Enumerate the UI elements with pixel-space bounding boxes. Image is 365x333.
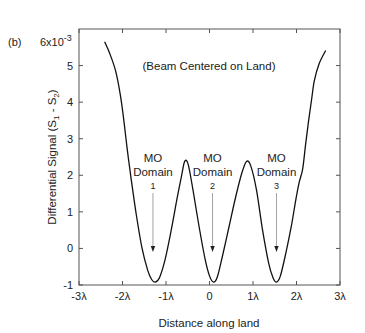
- svg-text:2: 2: [210, 181, 215, 191]
- x-tick-label: 2λ: [291, 290, 303, 302]
- mo-domain-3: MODomain3: [257, 152, 297, 252]
- svg-text:MO: MO: [144, 152, 163, 164]
- y-tick-label: 5: [67, 60, 73, 72]
- svg-text:MO: MO: [203, 152, 222, 164]
- svg-text:3: 3: [274, 181, 279, 191]
- x-tick-label: -3λ: [71, 290, 87, 302]
- svg-text:1: 1: [150, 181, 155, 191]
- chart: (b) 6x10-3 -1012345 -3λ-2λ-1λ01λ2λ3λ (Be…: [0, 0, 365, 333]
- annotation-title: (Beam Centered on Land): [143, 60, 276, 72]
- x-axis-label: Distance along land: [158, 317, 259, 329]
- svg-text:Domain: Domain: [133, 166, 173, 178]
- x-tick-label: 0: [206, 290, 212, 302]
- arrow-down-icon: [151, 246, 155, 252]
- y-tick-label: 3: [67, 133, 73, 145]
- y-tick-label: 1: [67, 206, 73, 218]
- arrow-down-icon: [210, 246, 214, 252]
- panel-label: (b): [8, 36, 21, 48]
- y-tick-label: 2: [67, 169, 73, 181]
- x-tick-label: -1λ: [158, 290, 174, 302]
- x-tick-label: -2λ: [115, 290, 131, 302]
- x-tick-label: 1λ: [247, 290, 259, 302]
- mo-domain-1: MODomain1: [133, 152, 173, 252]
- y-tick-label: 4: [67, 96, 73, 108]
- y-multiplier: 6x10-3: [40, 33, 72, 48]
- x-tick-label: 3λ: [334, 290, 346, 302]
- arrow-down-icon: [274, 246, 278, 252]
- y-tick-label: 0: [67, 242, 73, 254]
- mo-domain-annotations: MODomain1MODomain2MODomain3: [133, 152, 296, 252]
- svg-text:MO: MO: [267, 152, 286, 164]
- svg-text:Domain: Domain: [257, 166, 297, 178]
- svg-text:Domain: Domain: [193, 166, 233, 178]
- y-axis-label: Differential Signal (S1 - S2): [46, 89, 61, 224]
